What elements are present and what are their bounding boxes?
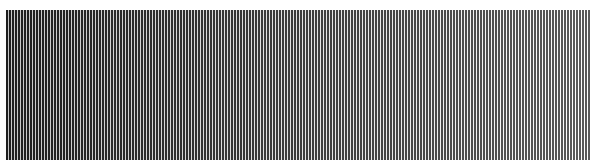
stripe-dark	[567, 10, 569, 160]
stripe-dark	[33, 10, 35, 160]
stripe-dark	[540, 10, 542, 160]
stripe-dark	[372, 10, 374, 160]
stripe-dark	[312, 10, 314, 160]
stripe-dark	[582, 10, 584, 160]
stripe-dark	[345, 10, 347, 160]
stripe-dark	[225, 10, 227, 160]
stripe-dark	[363, 10, 365, 160]
stripe-dark	[120, 10, 122, 160]
stripe-dark	[321, 10, 323, 160]
stripe-dark	[99, 10, 101, 160]
stripe-dark	[327, 10, 329, 160]
stripe-dark	[411, 10, 413, 160]
stripe-dark	[213, 10, 215, 160]
stripe-dark	[519, 10, 521, 160]
stripe-dark	[552, 10, 554, 160]
stripe-dark	[285, 10, 287, 160]
stripe-dark	[414, 10, 416, 160]
stripe-dark	[564, 10, 566, 160]
stripe-dark	[18, 10, 20, 160]
stripe-dark	[471, 10, 473, 160]
stripe-dark	[21, 10, 23, 160]
stripe-dark	[93, 10, 95, 160]
stripe-dark	[561, 10, 563, 160]
stripe-dark	[408, 10, 410, 160]
stripe-dark	[417, 10, 419, 160]
stripe-dark	[15, 10, 17, 160]
stripe-dark	[192, 10, 194, 160]
stripe-dark	[525, 10, 527, 160]
stripe-dark	[447, 10, 449, 160]
stripe-dark	[423, 10, 425, 160]
stripe-dark	[276, 10, 278, 160]
stripe-dark	[30, 10, 32, 160]
stripe-dark	[348, 10, 350, 160]
stripe-dark	[87, 10, 89, 160]
stripe-dark	[510, 10, 512, 160]
stripe-dark	[180, 10, 182, 160]
stripe-dark	[69, 10, 71, 160]
stripe-dark	[558, 10, 560, 160]
stripe-dark	[258, 10, 260, 160]
stripe-dark	[579, 10, 581, 160]
stripe-dark	[324, 10, 326, 160]
stripe-dark	[96, 10, 98, 160]
stripe-dark	[333, 10, 335, 160]
stripe-dark	[291, 10, 293, 160]
stripe-dark	[78, 10, 80, 160]
stripe-dark	[267, 10, 269, 160]
stripe-dark	[438, 10, 440, 160]
stripe-dark	[51, 10, 53, 160]
stripe-dark	[303, 10, 305, 160]
stripe-dark	[315, 10, 317, 160]
stripe-dark	[393, 10, 395, 160]
stripe-dark	[306, 10, 308, 160]
stripe-dark	[537, 10, 539, 160]
stripe-dark	[465, 10, 467, 160]
stripe-dark	[129, 10, 131, 160]
stripe-dark	[459, 10, 461, 160]
stripe-dark	[435, 10, 437, 160]
stripe-dark	[528, 10, 530, 160]
stripe-dark	[489, 10, 491, 160]
stripe-dark	[102, 10, 104, 160]
stripe-dark	[174, 10, 176, 160]
stripe-dark	[195, 10, 197, 160]
stripe-dark	[204, 10, 206, 160]
stripe-dark	[483, 10, 485, 160]
stripe-dark	[264, 10, 266, 160]
stripe-dark	[516, 10, 518, 160]
stripe-dark	[366, 10, 368, 160]
stripe-dark	[237, 10, 239, 160]
stripe-dark	[546, 10, 548, 160]
stripe-dark	[216, 10, 218, 160]
stripe-dark	[486, 10, 488, 160]
stripe-dark	[117, 10, 119, 160]
stripe-dark	[57, 10, 59, 160]
stripe-dark	[357, 10, 359, 160]
stripe-dark	[468, 10, 470, 160]
stripe-dark	[75, 10, 77, 160]
stripe-dark	[420, 10, 422, 160]
stripe-dark	[405, 10, 407, 160]
stripe-dark	[513, 10, 515, 160]
stripe-dark	[42, 10, 44, 160]
stripe-dark	[585, 10, 587, 160]
stripe-dark	[9, 10, 11, 160]
stripe-dark	[369, 10, 371, 160]
stripe-dark	[354, 10, 356, 160]
stripe-dark	[156, 10, 158, 160]
stripe-dark	[279, 10, 281, 160]
stripe-dark	[495, 10, 497, 160]
stripe-dark	[189, 10, 191, 160]
stripe-dark	[177, 10, 179, 160]
stripe-dark	[162, 10, 164, 160]
stripe-dark	[441, 10, 443, 160]
stripe-dark	[309, 10, 311, 160]
stripe-dark	[549, 10, 551, 160]
stripe-dark	[255, 10, 257, 160]
stripe-dark	[300, 10, 302, 160]
stripe-dark	[186, 10, 188, 160]
stripe-dark	[318, 10, 320, 160]
stripe-dark	[90, 10, 92, 160]
